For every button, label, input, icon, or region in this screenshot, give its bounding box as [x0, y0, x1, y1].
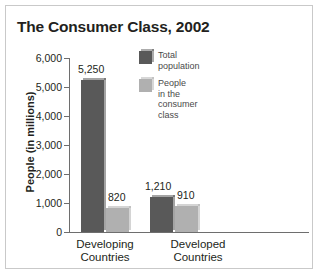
legend-label-consumer-class-line4: class [158, 110, 198, 121]
y-tick-mark-3000 [64, 145, 70, 146]
legend-label-consumer-class-line2: in the [158, 89, 198, 100]
y-tick-label-4000: 4,000 [36, 111, 62, 122]
bar-developed-consumer-class [175, 206, 198, 232]
y-tick-label-0: 0 [56, 227, 62, 238]
x-category-label-developing-line1: Developing [59, 238, 151, 251]
legend-label-total-population: Total population [158, 50, 200, 71]
bar-developing-consumer-class [106, 208, 129, 232]
y-tick-label-5000: 5,000 [36, 82, 62, 93]
legend-swatch-total-population-icon [139, 51, 152, 64]
bar-value-developed-total-population: 1,210 [145, 181, 171, 192]
y-tick-mark-5000 [64, 87, 70, 88]
legend-item-total-population: Total population [139, 50, 200, 71]
x-axis-line [69, 232, 309, 233]
x-category-label-developed-line2: Countries [152, 251, 244, 264]
y-tick-label-3000: 3,000 [36, 140, 62, 151]
bar-value-developing-consumer-class: 820 [108, 192, 126, 203]
y-tick-mark-1000 [64, 203, 70, 204]
y-axis-title: People (in millions) [24, 67, 36, 217]
bar-face [150, 197, 173, 232]
bar-face [81, 80, 104, 232]
bar-side-edge [129, 206, 131, 230]
bar-face [106, 208, 129, 232]
bar-top-edge [108, 206, 131, 208]
bar-top-edge [177, 204, 200, 206]
y-tick-mark-2000 [64, 174, 70, 175]
y-tick-label-2000: 2,000 [36, 169, 62, 180]
x-category-label-developed-line1: Developed [152, 238, 244, 251]
bar-face [175, 206, 198, 232]
legend-label-consumer-class-line1: People [158, 78, 198, 89]
y-tick-mark-4000 [64, 116, 70, 117]
bar-developing-total-population [81, 80, 104, 232]
bar-top-edge [83, 78, 106, 80]
chart-legend: Total population People in the consumer … [139, 50, 200, 127]
legend-label-consumer-class: People in the consumer class [158, 78, 198, 120]
bar-side-edge [198, 204, 200, 230]
chart-figure: The Consumer Class, 2002 6,000 5,000 4,0… [5, 5, 313, 269]
plot-area: 6,000 5,000 4,000 3,000 2,000 1,000 0 Pe… [6, 6, 314, 270]
x-category-label-developing: Developing Countries [59, 238, 151, 264]
y-tick-label-6000: 6,000 [36, 53, 62, 64]
legend-label-total-population-line2: population [158, 61, 200, 72]
x-category-label-developed: Developed Countries [152, 238, 244, 264]
y-tick-mark-0 [64, 232, 70, 233]
y-tick-label-1000: 1,000 [36, 198, 62, 209]
legend-item-consumer-class: People in the consumer class [139, 78, 200, 120]
legend-label-total-population-line1: Total [158, 50, 200, 61]
bar-value-developing-total-population: 5,250 [78, 64, 104, 75]
legend-swatch-consumer-class-icon [139, 79, 152, 92]
bar-value-developed-consumer-class: 910 [177, 190, 195, 201]
y-tick-mark-6000 [64, 58, 70, 59]
bar-developed-total-population [150, 197, 173, 232]
x-category-label-developing-line2: Countries [59, 251, 151, 264]
legend-label-consumer-class-line3: consumer [158, 99, 198, 110]
bar-top-edge [152, 195, 175, 197]
